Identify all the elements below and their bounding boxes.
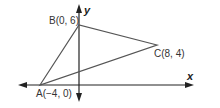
vertex-a-label: A(−4, 0) [36,88,72,99]
x-axis-label: x [186,70,194,82]
triangle-abc [40,25,157,85]
coordinate-plane: y x B(0, 6) C(8, 4) A(−4, 0) [0,0,220,108]
y-axis-bottom-arrow-icon [76,93,82,102]
x-axis-right-arrow-icon [185,82,194,88]
y-axis-label: y [83,4,91,16]
vertex-c-label: C(8, 4) [154,48,185,59]
y-axis-top-arrow-icon [76,4,82,13]
x-axis-left-arrow-icon [18,82,27,88]
vertex-b-label: B(0, 6) [49,15,79,26]
